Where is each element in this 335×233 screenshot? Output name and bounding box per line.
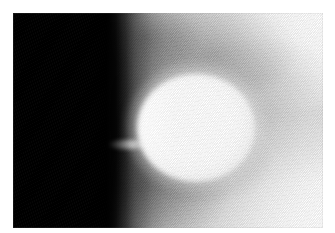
mammogram-image: [13, 13, 323, 228]
bright-streak: [108, 140, 148, 149]
dense-mass: [137, 74, 255, 182]
image-caption: [0, 0, 1, 1]
page-root: [0, 0, 335, 233]
